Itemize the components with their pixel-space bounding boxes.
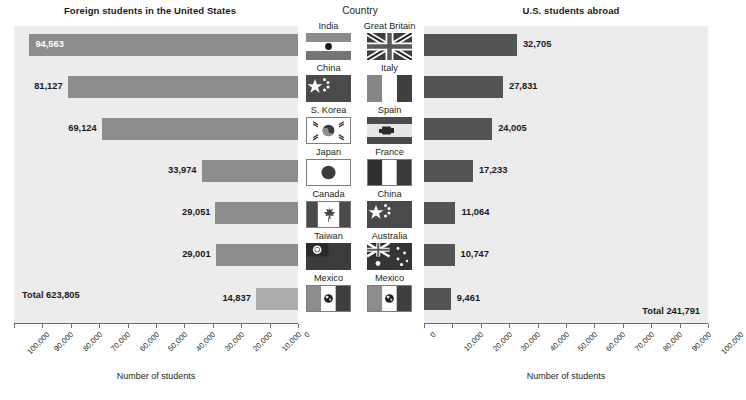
country-row: S. Korea Spain: [300, 104, 420, 146]
country-cell-spain: Spain: [361, 104, 418, 146]
axis-tick-label: 80,000: [81, 330, 104, 353]
china-flag-icon: [367, 201, 412, 228]
country-row: India Great Britain: [300, 20, 420, 62]
country-label: Canada: [300, 188, 357, 200]
bar-value-left-canada: 29,051: [0, 208, 210, 217]
country-row: China Italy: [300, 62, 420, 104]
bar-value-right-china: 11,064: [461, 208, 489, 217]
axis-tick: [538, 324, 539, 328]
axis-tick-label: 0: [428, 330, 437, 339]
axis-tick-label: 50,000: [166, 330, 189, 353]
country-label: China: [361, 188, 418, 200]
bar-left-taiwan: [216, 244, 298, 266]
right-axis-caption: Number of students: [424, 371, 708, 381]
country-cell-china: China: [300, 62, 357, 104]
country-cell-canada: Canada: [300, 188, 357, 230]
mexico-flag-icon: [306, 285, 351, 312]
spain-flag-icon: [367, 117, 412, 144]
axis-tick-label: 60,000: [138, 330, 161, 353]
bar-value-left-india: 94,563: [35, 40, 63, 49]
axis-tick-label: 20,000: [251, 330, 274, 353]
bar-left-india: [29, 34, 298, 56]
axis-tick: [509, 324, 510, 328]
axis-tick-label: 20,000: [491, 330, 514, 353]
country-cell-mexico: Mexico: [361, 272, 418, 314]
country-label: Mexico: [300, 272, 357, 284]
bar-left-japan: [202, 160, 298, 182]
france-flag-icon: [367, 159, 412, 186]
center-column-title: Country: [300, 5, 420, 16]
bar-value-left-china: 81,127: [0, 82, 63, 91]
country-column: India Great Britain China Italy S. Korea: [300, 20, 420, 325]
bar-right-mexico: [424, 288, 451, 310]
axis-tick: [128, 324, 129, 328]
great-britain-flag-icon: [367, 33, 412, 60]
axis-tick-label: 60,000: [604, 330, 627, 353]
left-panel-title: Foreign students in the United States: [0, 5, 300, 16]
axis-tick: [594, 324, 595, 328]
country-label: Australia: [361, 230, 418, 242]
country-cell-china: China: [361, 188, 418, 230]
bar-value-right-spain: 24,005: [498, 124, 526, 133]
right-total-label: Total 241,791: [588, 306, 700, 316]
axis-tick-label: 100,000: [25, 330, 51, 356]
bar-left-canada: [215, 202, 298, 224]
axis-tick-label: 70,000: [633, 330, 656, 353]
axis-tick-label: 90,000: [52, 330, 75, 353]
left-total-label: Total 623,805: [22, 290, 80, 300]
country-label: Mexico: [361, 272, 418, 284]
country-label: France: [361, 146, 418, 158]
bar-value-right-italy: 27,831: [509, 82, 537, 91]
axis-tick: [156, 324, 157, 328]
axis-tick: [708, 324, 709, 328]
bar-value-right-great-britain: 32,705: [523, 40, 551, 49]
axis-tick: [42, 324, 43, 328]
axis-tick-label: 50,000: [576, 330, 599, 353]
axis-tick-label: 100,000: [719, 330, 745, 356]
india-flag-icon: [306, 33, 351, 60]
country-cell-italy: Italy: [361, 62, 418, 104]
country-cell-australia: Australia: [361, 230, 418, 272]
bar-right-china: [424, 202, 455, 224]
axis-tick: [481, 324, 482, 328]
bar-left-s-korea: [102, 118, 298, 140]
country-cell-mexico: Mexico: [300, 272, 357, 314]
axis-tick: [623, 324, 624, 328]
australia-flag-icon: [367, 243, 412, 270]
country-label: Italy: [361, 62, 418, 74]
mexico-flag-icon: [367, 285, 412, 312]
canada-flag-icon: [306, 201, 351, 228]
bar-value-right-mexico: 9,461: [457, 294, 480, 303]
axis-tick: [651, 324, 652, 328]
axis-tick-label: 40,000: [548, 330, 571, 353]
right-panel-title: U.S. students abroad: [420, 5, 722, 16]
bar-value-right-france: 17,233: [479, 166, 507, 175]
axis-tick-label: 30,000: [519, 330, 542, 353]
country-label: China: [300, 62, 357, 74]
bar-value-left-taiwan: 29,001: [0, 250, 211, 259]
country-row: Taiwan Australia: [300, 230, 420, 272]
axis-tick-label: 40,000: [194, 330, 217, 353]
country-cell-taiwan: Taiwan: [300, 230, 357, 272]
bar-left-mexico: [256, 288, 298, 310]
axis-tick-label: 0: [302, 330, 311, 339]
axis-tick: [71, 324, 72, 328]
axis-tick-label: 30,000: [223, 330, 246, 353]
axis-tick-label: 10,000: [462, 330, 485, 353]
axis-tick: [680, 324, 681, 328]
axis-tick: [452, 324, 453, 328]
taiwan-flag-icon: [306, 243, 351, 270]
bar-left-china: [68, 76, 298, 98]
axis-tick: [424, 324, 425, 328]
south-korea-flag-icon: [306, 117, 351, 144]
bar-value-left-japan: 33,974: [0, 166, 197, 175]
axis-tick: [99, 324, 100, 328]
country-label: Japan: [300, 146, 357, 158]
axis-tick-label: 70,000: [109, 330, 132, 353]
bar-right-australia: [424, 244, 455, 266]
country-cell-france: France: [361, 146, 418, 188]
china-flag-icon: [306, 75, 351, 102]
italy-flag-icon: [367, 75, 412, 102]
country-cell-s-korea: S. Korea: [300, 104, 357, 146]
axis-tick: [14, 324, 15, 328]
